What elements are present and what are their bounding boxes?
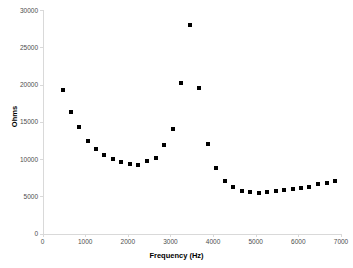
data-point	[282, 188, 286, 192]
chart-container: 050001000015000200002500030000 010002000…	[0, 0, 353, 268]
data-point	[111, 157, 115, 161]
data-point	[316, 182, 320, 186]
data-point	[171, 127, 175, 131]
data-point	[265, 190, 269, 194]
data-point	[240, 189, 244, 193]
data-point	[86, 139, 90, 143]
data-point	[179, 81, 183, 85]
data-point	[214, 166, 218, 170]
data-point	[145, 159, 149, 163]
data-point	[162, 143, 166, 147]
data-point	[299, 186, 303, 190]
data-point	[223, 179, 227, 183]
x-axis-title: Frequency (Hz)	[0, 251, 353, 260]
data-point	[69, 110, 73, 114]
data-point	[136, 163, 140, 167]
data-point	[274, 189, 278, 193]
data-point	[61, 88, 65, 92]
data-point	[154, 156, 158, 160]
data-point	[188, 23, 192, 27]
y-axis-title: Ohms	[10, 87, 19, 147]
data-point	[102, 153, 106, 157]
data-point	[307, 185, 311, 189]
data-point	[325, 181, 329, 185]
data-point	[206, 142, 210, 146]
data-point	[291, 187, 295, 191]
data-point	[333, 179, 337, 183]
data-point	[94, 147, 98, 151]
data-point	[231, 185, 235, 189]
data-point	[248, 190, 252, 194]
data-point	[257, 191, 261, 195]
data-point	[119, 160, 123, 164]
data-point	[128, 162, 132, 166]
scatter-series-impedance	[0, 0, 353, 268]
data-point	[197, 86, 201, 90]
data-point	[77, 125, 81, 129]
